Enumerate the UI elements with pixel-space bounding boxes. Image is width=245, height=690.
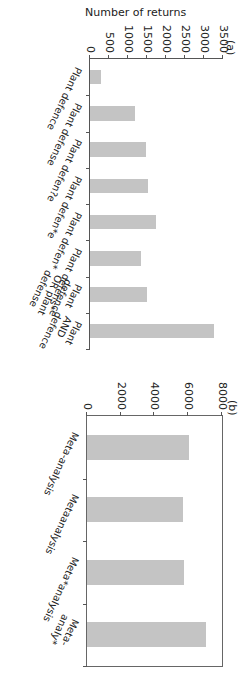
y-tick-label: 500: [103, 19, 116, 53]
y-tick-label: 1500: [141, 19, 154, 53]
x-tick: [86, 204, 90, 205]
y-tick-label: 0: [84, 19, 97, 53]
bar: [90, 324, 214, 339]
y-tick: [222, 55, 223, 59]
y-axis-label: Number of returns: [85, 6, 186, 19]
y-tick: [203, 55, 204, 59]
x-tick-label: Meta-analysis: [42, 430, 81, 497]
bar: [90, 215, 156, 230]
y-tick: [184, 55, 185, 59]
y-tick-label: 8000: [216, 376, 229, 410]
bar: [90, 179, 148, 194]
x-tick: [86, 132, 90, 133]
y-tick: [187, 412, 188, 416]
y-tick: [146, 55, 147, 59]
bar: [87, 497, 183, 522]
x-tick: [86, 168, 90, 169]
figure: (a) Number of returns 050010001500200025…: [0, 0, 245, 690]
plot-area-a: 0500100015002000250030003500Plant defenc…: [89, 58, 223, 349]
y-tick-label: 1000: [122, 19, 135, 53]
x-tick: [83, 666, 87, 667]
x-tick: [86, 277, 90, 278]
y-tick: [165, 55, 166, 59]
y-tick-label: 3500: [217, 19, 230, 53]
y-tick-label: 6000: [182, 376, 195, 410]
x-tick: [86, 95, 90, 96]
plot-area-b: 02000400060008000Meta-analysisMetaanalys…: [86, 415, 223, 667]
y-tick-label: 0: [81, 376, 94, 410]
x-tick-label: Metaanalysis: [43, 493, 81, 557]
y-tick: [86, 412, 87, 416]
panel-b: (b) 02000400060008000Meta-analysisMetaan…: [0, 370, 245, 690]
bar: [90, 106, 135, 121]
bar: [90, 287, 147, 302]
x-tick: [86, 313, 90, 314]
bar: [90, 142, 146, 157]
y-tick: [154, 412, 155, 416]
y-tick-label: 4000: [149, 376, 162, 410]
y-tick: [120, 412, 121, 416]
bar: [90, 70, 101, 85]
bar: [87, 435, 189, 460]
x-tick: [86, 349, 90, 350]
bar: [87, 622, 206, 647]
bar: [87, 560, 184, 585]
y-tick-label: 3000: [198, 19, 211, 53]
y-tick: [221, 412, 222, 416]
y-tick-label: 2000: [115, 376, 128, 410]
y-tick-label: 2500: [179, 19, 192, 53]
bar: [90, 251, 141, 266]
panel-a: (a) Number of returns 050010001500200025…: [0, 0, 245, 360]
x-tick: [83, 604, 87, 605]
y-tick: [127, 55, 128, 59]
y-tick: [89, 55, 90, 59]
x-tick: [83, 479, 87, 480]
y-tick-label: 2000: [160, 19, 173, 53]
x-tick: [86, 240, 90, 241]
y-tick: [108, 55, 109, 59]
x-tick: [83, 541, 87, 542]
